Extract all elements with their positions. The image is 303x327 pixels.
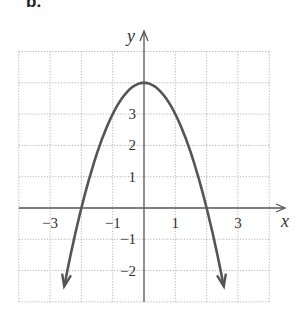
y-tick-label: 1 bbox=[129, 169, 137, 185]
y-tick-label: −1 bbox=[120, 231, 136, 247]
x-tick-label: −3 bbox=[42, 215, 58, 231]
y-tick-label: 3 bbox=[129, 106, 137, 122]
y-tick-label: −2 bbox=[120, 263, 136, 279]
x-tick-label: −1 bbox=[105, 215, 121, 231]
parabola-chart: −3−113321−1−2 x y bbox=[0, 0, 303, 327]
x-axis-label: x bbox=[280, 211, 289, 231]
x-tick-label: 3 bbox=[234, 215, 242, 231]
y-axis-label: y bbox=[125, 26, 135, 46]
axes bbox=[19, 31, 285, 302]
x-tick-label: 1 bbox=[172, 215, 180, 231]
y-tick-label: 2 bbox=[129, 137, 137, 153]
